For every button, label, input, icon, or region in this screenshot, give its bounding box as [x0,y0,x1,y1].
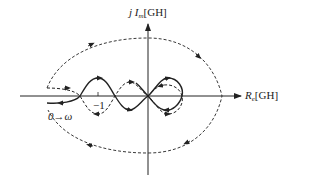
arrow-ellipse-bottom-left [89,145,93,146]
arrow-ellipse-top-left [88,44,92,46]
y-label-unit: [GH] [144,6,167,18]
y-label-prefix: j [129,6,132,18]
solid-nyquist-curve [47,78,182,110]
frequency-arrow-icon: → [54,110,65,122]
imaginary-axis-label: j Im[GH] [129,7,167,20]
x-label-unit: [GH] [255,89,278,101]
arrow-dashed-5 [160,85,164,86]
real-axis-label: Re[GH] [245,90,278,103]
frequency-direction-label: 0→ω [48,111,72,122]
tick-label-minus-one: −1 [93,100,105,111]
x-label-main: R [245,89,252,101]
frequency-end: ω [65,110,73,122]
